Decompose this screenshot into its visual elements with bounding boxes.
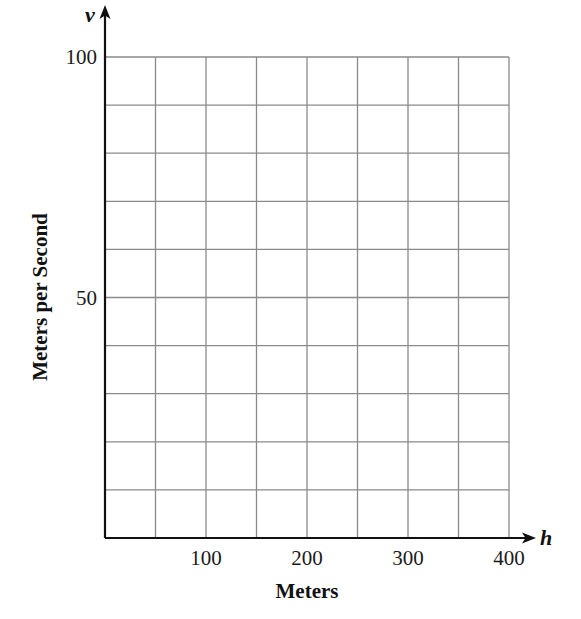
y-axis-title: Meters per Second xyxy=(28,213,52,381)
y-tick-labels: 50100 xyxy=(66,45,98,310)
x-tick-label: 300 xyxy=(392,546,424,570)
axes xyxy=(100,5,537,544)
x-tick-label: 400 xyxy=(493,546,525,570)
grid-lines xyxy=(105,57,509,538)
y-variable-label: v xyxy=(85,2,95,27)
x-tick-labels: 100200300400 xyxy=(190,546,525,570)
x-variable-label: h xyxy=(540,525,552,550)
blank-graph: v h 100200300400 50100 Meters Meters per… xyxy=(0,0,581,619)
y-tick-label: 100 xyxy=(66,45,98,69)
x-tick-label: 200 xyxy=(291,546,323,570)
y-tick-label: 50 xyxy=(76,286,97,310)
x-axis-title: Meters xyxy=(276,579,339,603)
x-tick-label: 100 xyxy=(190,546,222,570)
